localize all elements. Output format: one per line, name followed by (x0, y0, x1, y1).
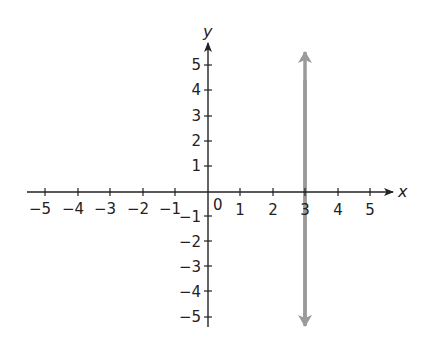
y-tick-label: −2 (179, 233, 201, 251)
y-tick-labels: 5 4 3 2 1 −1 −2 −3 −4 −5 (179, 56, 201, 326)
y-tick-label: 3 (191, 107, 201, 125)
y-tick-label: −1 (179, 208, 201, 226)
x-tick-label: 1 (235, 201, 245, 219)
y-tick-label: −3 (179, 258, 201, 276)
origin-label: 0 (213, 196, 223, 214)
x-tick-label: −2 (127, 200, 149, 218)
x-axis-label: x (397, 182, 408, 201)
x-tick-label: 3 (300, 201, 310, 219)
y-axis-label: y (202, 22, 213, 41)
y-tick-label: 5 (191, 56, 201, 74)
y-tick-label: 1 (191, 157, 201, 175)
y-tick-label: −4 (179, 283, 201, 301)
x-tick-label: −3 (94, 200, 116, 218)
coordinate-plane: −5 −4 −3 −2 −1 1 2 3 4 5 0 5 4 3 2 1 −1 … (0, 0, 428, 346)
y-tick-label: −5 (179, 308, 201, 326)
x-tick-label: 5 (365, 201, 375, 219)
x-tick-label: 2 (268, 201, 278, 219)
x-tick-label: −4 (62, 200, 84, 218)
x-tick-label: −1 (159, 200, 181, 218)
x-tick-label: 4 (333, 201, 343, 219)
y-tick-label: 4 (191, 81, 201, 99)
x-tick-label: −5 (29, 200, 51, 218)
x-tick-labels: −5 −4 −3 −2 −1 1 2 3 4 5 (29, 200, 375, 219)
y-tick-label: 2 (191, 132, 201, 150)
